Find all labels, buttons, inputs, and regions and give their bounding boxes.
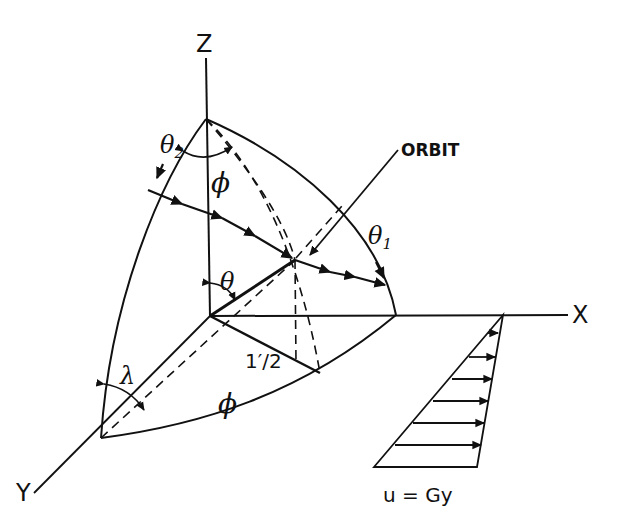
meridian-through-point	[206, 119, 320, 373]
dashed-vertical	[295, 260, 296, 362]
z-axis-label: Z	[196, 30, 212, 58]
dashed-orbit-parallel	[296, 206, 342, 258]
orbit-path	[148, 164, 385, 285]
theta2-label: θ2	[160, 131, 184, 162]
half-length-label: 1′/2	[245, 349, 282, 373]
theta1-label: θ1	[368, 222, 392, 253]
arc-pole-to-y	[101, 119, 206, 438]
x-axis-label: X	[572, 301, 588, 329]
shear-flow-label: u = Gy	[383, 483, 453, 507]
orbit-diagram: Z X Y ORBIT θ2 θ1 θ ϕ ϕ λ 1′/2 u = Gy	[0, 0, 619, 522]
arc-y-to-x	[101, 315, 396, 438]
sphere-outline	[101, 119, 396, 438]
z-axis	[206, 58, 210, 316]
axes	[34, 58, 568, 493]
shear-profile	[374, 315, 503, 467]
orbit-label: ORBIT	[401, 140, 460, 160]
x-axis	[210, 315, 568, 316]
y-axis	[34, 316, 210, 493]
lambda-label: λ	[119, 362, 135, 390]
y-axis-label: Y	[15, 479, 31, 507]
theta-label: θ	[220, 268, 235, 296]
phi-bottom-label: ϕ	[218, 387, 237, 420]
phi-top-label: ϕ	[211, 166, 230, 199]
arc-pole-to-x	[206, 119, 396, 315]
diagram-canvas: Z X Y ORBIT θ2 θ1 θ ϕ ϕ λ 1′/2 u = Gy	[0, 0, 619, 522]
